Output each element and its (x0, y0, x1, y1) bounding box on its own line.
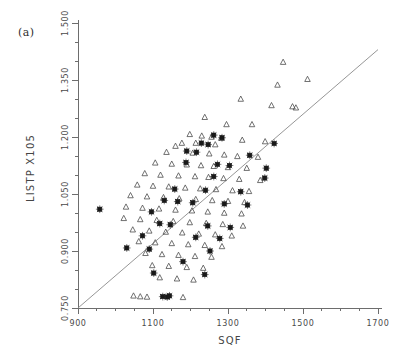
data-point-star (202, 186, 210, 194)
scatter-plot-canvas: 9001100130015001700 0.7500.9001.0501.200… (0, 0, 406, 363)
data-point-triangle (166, 263, 172, 268)
x-tick-label: 1500 (292, 319, 315, 328)
data-point-star (160, 197, 168, 205)
x-axis-title: SQF (218, 335, 242, 346)
data-point-triangle (137, 294, 143, 299)
data-point-star (204, 222, 212, 230)
data-point-star (210, 131, 218, 139)
data-point-triangle (191, 277, 197, 282)
data-point-star (197, 139, 205, 147)
data-point-triangle (206, 174, 212, 179)
y-tick-label: 1.200 (61, 124, 70, 150)
data-point-triangle (230, 188, 236, 193)
data-point-star (166, 292, 174, 300)
data-point-star (201, 271, 209, 279)
y-tick-label: 0.750 (61, 295, 70, 321)
data-point-star (210, 173, 218, 181)
data-point-triangle (159, 251, 165, 256)
data-point-star (193, 148, 201, 156)
data-point-star (171, 185, 179, 193)
data-point-triangle (206, 151, 212, 156)
data-point-star (218, 134, 226, 142)
data-point-star (174, 198, 182, 206)
data-point-triangle (128, 193, 134, 198)
data-point-triangle (142, 170, 148, 175)
data-point-star (216, 235, 224, 243)
data-point-triangle (176, 173, 182, 178)
x-tick-label: 1300 (217, 319, 240, 328)
data-point-star (206, 247, 214, 255)
data-point-triangle (144, 294, 150, 299)
data-point-star (182, 159, 190, 167)
data-point-triangle (152, 160, 158, 165)
data-point-triangle (174, 276, 180, 281)
data-point-triangle (152, 240, 158, 245)
data-point-triangle (164, 149, 170, 154)
x-axis-tick-labels: 9001100130015001700 (69, 319, 389, 328)
data-point-star (189, 199, 197, 207)
data-point-triangle (240, 223, 246, 228)
data-point-star (246, 151, 254, 159)
data-point-triangle (180, 294, 186, 299)
data-point-star (237, 188, 245, 196)
data-point-triangle (130, 227, 136, 232)
data-point-triangle (169, 240, 175, 245)
data-point-triangle (173, 207, 179, 212)
data-point-triangle (182, 185, 188, 190)
data-point-triangle (202, 242, 208, 247)
data-point-triangle (140, 205, 146, 210)
x-axis-ticks (78, 308, 378, 314)
data-point-star (192, 233, 200, 241)
data-point-triangle (144, 194, 150, 199)
data-point-triangle (123, 204, 129, 209)
data-point-triangle (224, 121, 230, 126)
x-tick-label: 900 (69, 319, 86, 328)
figure-panel: (a) 9001100130015001700 0.7500.9001.0501… (0, 0, 406, 363)
data-point-star (139, 232, 147, 240)
data-point-triangle (200, 265, 206, 270)
data-point-star (123, 244, 131, 252)
data-point-triangle (192, 253, 198, 258)
data-point-triangle (149, 262, 155, 267)
data-point-star (150, 269, 158, 277)
x-tick-label: 1100 (142, 319, 165, 328)
data-point-triangle (134, 182, 140, 187)
data-point-triangle (146, 228, 152, 233)
data-point-triangle (239, 137, 245, 142)
data-point-triangle (209, 197, 215, 202)
y-tick-label: 0.900 (61, 238, 70, 264)
data-point-triangle (185, 242, 191, 247)
data-point-triangle (239, 211, 245, 216)
data-point-triangle (192, 174, 198, 179)
data-point-triangle (150, 183, 156, 188)
data-point-star (148, 208, 156, 216)
data-point-triangle (202, 114, 208, 119)
y-tick-label: 1.050 (61, 181, 70, 207)
data-point-star (261, 174, 269, 182)
regression-line (78, 50, 378, 308)
y-axis-ticks (72, 23, 78, 308)
data-point-triangle (221, 152, 227, 157)
data-point-triangle (269, 102, 275, 107)
data-point-star (204, 141, 212, 149)
data-point-star (156, 220, 164, 228)
data-point-triangle (179, 140, 185, 145)
data-point-star (220, 200, 228, 208)
data-point-triangle (199, 133, 205, 138)
data-point-triangle (156, 206, 162, 211)
data-point-triangle (249, 121, 255, 126)
data-point-triangle (187, 131, 193, 136)
data-point-triangle (236, 176, 242, 181)
data-point-triangle (220, 221, 226, 226)
data-point-triangle (275, 82, 281, 87)
data-point-star (226, 162, 234, 170)
data-point-triangle (209, 254, 215, 259)
data-point-star (96, 205, 104, 213)
data-point-triangle (212, 142, 218, 147)
data-point-triangle (244, 165, 250, 170)
data-point-triangle (121, 215, 127, 220)
data-point-triangle (262, 139, 268, 144)
data-point-triangle (221, 175, 227, 180)
x-tick-label: 1700 (367, 319, 390, 328)
data-point-star (166, 221, 174, 229)
